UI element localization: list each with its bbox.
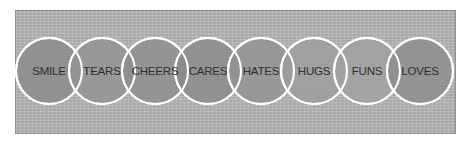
circle-label-loves: LOVES xyxy=(401,65,439,77)
circle-label-smile: SMILE xyxy=(32,65,66,77)
circle-label-hugs: HUGS xyxy=(298,65,331,77)
circle-label-hates: HATES xyxy=(243,65,280,77)
circle-label-funs: FUNS xyxy=(352,65,383,77)
circle-label-cheers: CHEERS xyxy=(132,65,179,77)
circle-label-tears: TEARS xyxy=(83,65,121,77)
circles-diagram: SMILETEARSCHEERSCARESHATESHUGSFUNSLOVES xyxy=(0,0,473,141)
circles-layer xyxy=(16,38,453,104)
circle-label-cares: CARES xyxy=(189,65,228,77)
